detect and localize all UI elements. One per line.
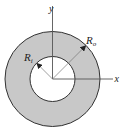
outer-radius-label: Ro — [85, 34, 97, 48]
annulus-diagram: y x Ri Ro — [0, 0, 122, 131]
y-axis-label: y — [48, 3, 54, 14]
x-axis-label: x — [114, 73, 120, 84]
